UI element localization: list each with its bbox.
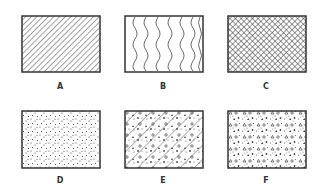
panel-d-stipple: [21, 110, 101, 169]
panel-a-diagonal-hatch: [21, 15, 101, 73]
label-c: C: [256, 82, 276, 91]
label-f: F: [256, 176, 276, 185]
panel-c-crosshatch: [227, 15, 307, 73]
panel-f-aggregate: [227, 110, 307, 169]
label-a: A: [50, 82, 70, 91]
panel-e-hatch-aggregate: [124, 110, 204, 169]
panel-b-wavy-lines: [124, 15, 204, 73]
label-d: D: [50, 176, 70, 185]
label-e: E: [153, 176, 173, 185]
label-b: B: [153, 82, 173, 91]
